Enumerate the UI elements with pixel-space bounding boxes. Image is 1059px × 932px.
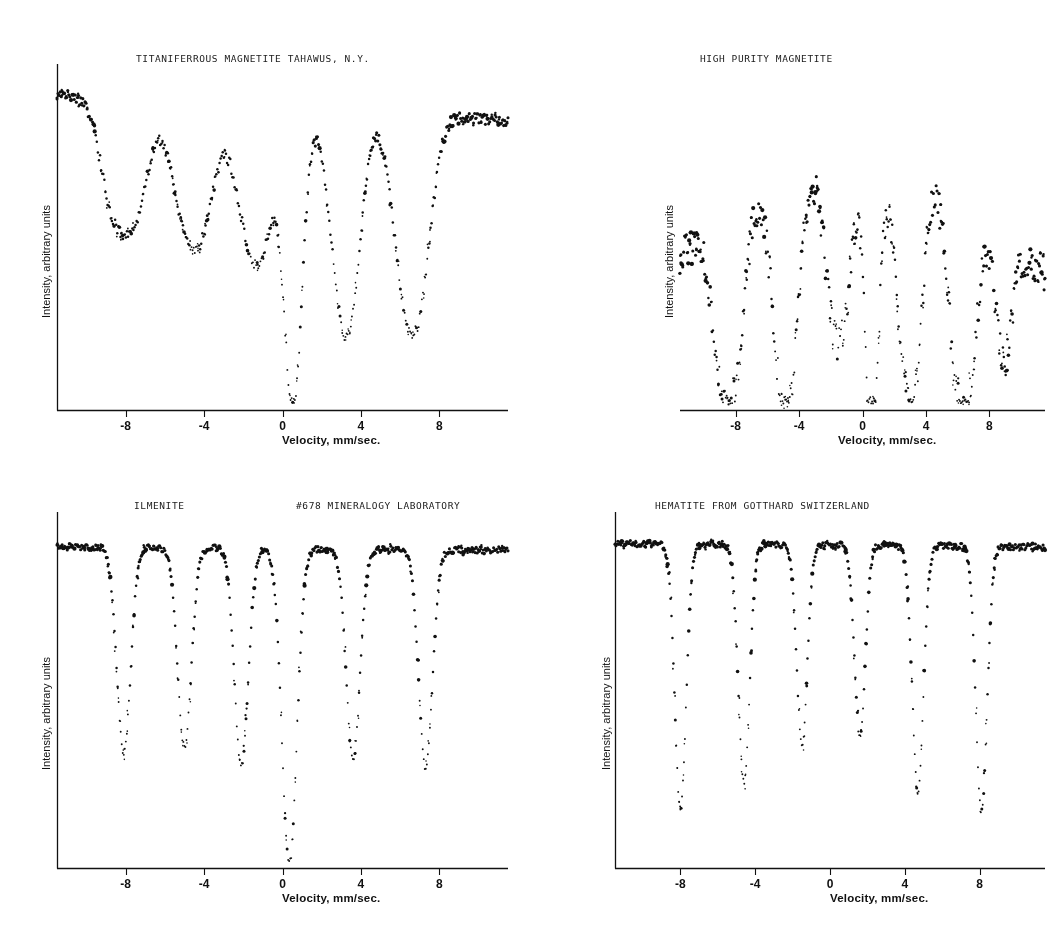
x-tick-label-hematite-gotthard-4: 8 (967, 877, 993, 891)
mossbauer-spectra-figure: TITANIFERROUS MAGNETITE TAHAWUS, N.Y.-8-… (0, 0, 1059, 932)
y-axis-label-hematite-gotthard: Intensity, arbitrary units (600, 657, 612, 770)
panel-title-hematite-gotthard: HEMATITE FROM GOTTHARD SWITZERLAND (655, 500, 870, 511)
x-tick-label-hematite-gotthard-1: -4 (742, 877, 768, 891)
spectrum-panel-hematite-gotthard: HEMATITE FROM GOTTHARD SWITZERLAND-8-404… (0, 0, 1059, 932)
x-tick-label-hematite-gotthard-0: -8 (667, 877, 693, 891)
spectrum-plot-hematite-gotthard (0, 0, 1059, 932)
x-axis-label-hematite-gotthard: Velocity, mm/sec. (830, 892, 928, 904)
x-tick-label-hematite-gotthard-2: 0 (817, 877, 843, 891)
x-tick-label-hematite-gotthard-3: 4 (892, 877, 918, 891)
